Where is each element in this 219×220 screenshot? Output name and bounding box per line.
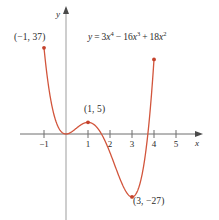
x-tick-label-3: 3 [125,139,139,149]
x-tick-label-5: 5 [169,139,183,149]
point-dot-max [86,120,90,124]
y-axis-label: y [56,9,60,19]
equation-term2-exp: 3 [137,30,140,37]
annotation-local-min: (3, −27) [133,196,165,206]
point-dot-right [152,58,156,62]
equation-op1: − [116,32,121,42]
equation-term3-exp: 2 [163,30,166,37]
equation-label: y=3x4−16x3+18x2 [88,32,166,42]
equation-lhs: y [88,32,92,42]
x-tick-label-2: 2 [103,139,117,149]
equation-equals: = [94,32,99,42]
annotation-local-max: (1, 5) [84,104,105,114]
function-graph-figure: y x −1 1 2 3 4 5 (−1, 37) (1, 5) (3, −27… [0,0,219,220]
x-tick-label-4: 4 [147,139,161,149]
point-dot-left [42,46,46,50]
annotation-left-endpoint: (−1, 37) [14,32,46,42]
x-tick-label-1: 1 [81,139,95,149]
x-axis-label: x [195,138,199,148]
x-tick-label--1: −1 [37,139,51,149]
equation-term1-exp: 4 [111,30,114,37]
quartic-curve [44,48,154,197]
equation-term2-coef: 16 [123,32,133,42]
equation-op2: + [142,32,147,42]
equation-term3-coef: 18 [149,32,159,42]
